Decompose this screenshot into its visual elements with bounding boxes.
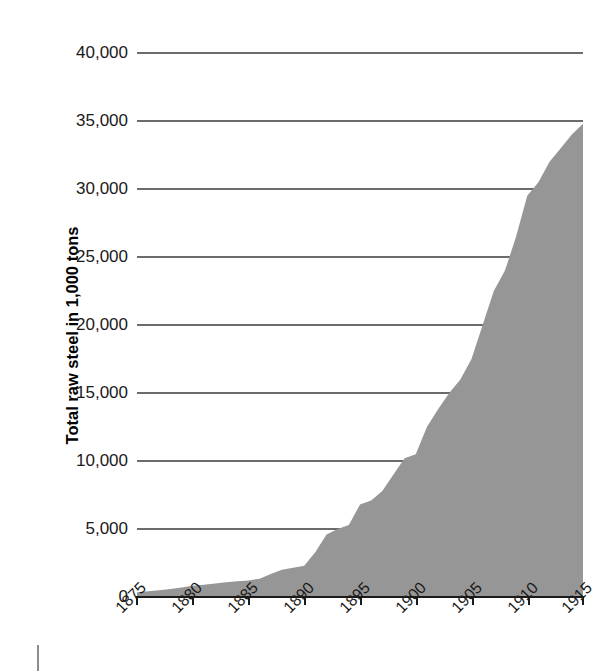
y-tick-label-5000: 5,000 (48, 519, 128, 539)
y-tick-label-15000: 15,000 (48, 383, 128, 403)
y-tick-label-10000: 10,000 (48, 451, 128, 471)
y-tick-label-30000: 30,000 (48, 179, 128, 199)
page-corner-mark (37, 645, 39, 671)
y-tick-label-20000: 20,000 (48, 315, 128, 335)
y-axis-tick-labels: 40,000 35,000 30,000 25,000 20,000 15,00… (48, 0, 128, 671)
area-chart-figure: Total raw steel in 1,000 tons 40,000 35,… (0, 0, 612, 671)
y-tick-label-25000: 25,000 (48, 247, 128, 267)
area-series-path (137, 124, 583, 597)
plot-area (137, 0, 583, 671)
y-tick-label-40000: 40,000 (48, 43, 128, 63)
y-tick-label-35000: 35,000 (48, 111, 128, 131)
area-series-svg (137, 0, 583, 671)
